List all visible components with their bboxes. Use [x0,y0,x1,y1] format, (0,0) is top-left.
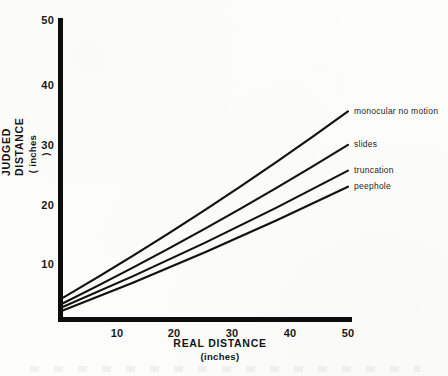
curve-peephole [62,187,349,311]
y-tick-label-40: 40 [28,79,54,91]
x-tick-label-10: 10 [104,327,130,339]
y-tick-label-10: 10 [28,258,54,270]
x-tick-label-50: 50 [335,327,361,339]
y-axis-title: JUDGED DISTANCE ( inches ) [0,132,52,176]
curve-label-monocular-no-motion: monocular no motion [354,106,438,116]
curve-truncation [62,171,349,308]
curve-label-peephole: peephole [354,181,391,191]
y-axis-line [58,18,63,322]
x-axis-title-main: REAL DISTANCE [173,337,266,349]
y-axis-title-units: ( inches ) [26,132,52,176]
curve-label-slides: slides [354,139,377,149]
figure-chart-judged-vs-real-distance: 50 40 30 20 10 10 20 30 40 50 monocular … [0,0,448,376]
y-tick-label-20: 20 [28,199,54,211]
curve-slides [62,145,349,304]
y-tick-label-50: 50 [28,14,54,26]
x-axis-line [58,317,352,322]
x-axis-title-units: (inches) [140,350,300,364]
curve-monocular-no-motion [62,111,349,298]
data-curves-group [62,111,349,311]
curve-label-truncation: truncation [354,165,394,175]
x-axis-title: REAL DISTANCE (inches) [140,336,300,364]
